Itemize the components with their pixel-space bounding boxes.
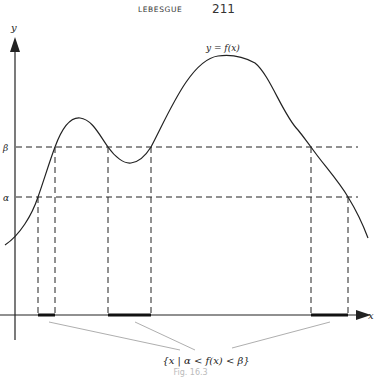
figure-caption: Fig. 16.3 bbox=[0, 368, 381, 377]
function-curve bbox=[5, 55, 368, 245]
level-lines bbox=[16, 147, 358, 197]
y-axis-label: y bbox=[10, 22, 17, 33]
beta-label: β bbox=[2, 143, 8, 153]
set-label: {x | α < f(x) < β} bbox=[162, 355, 249, 367]
alpha-label: α bbox=[3, 193, 9, 203]
y-axis: y bbox=[10, 22, 20, 340]
projection-lines bbox=[38, 147, 348, 315]
x-axis-label: x bbox=[368, 310, 374, 321]
curve-label: y = f(x) bbox=[205, 43, 240, 53]
y-axis-arrow-icon bbox=[10, 37, 20, 52]
lebesgue-figure: y x β α y = f(x) {x | α < f(x) < β} bbox=[0, 0, 381, 384]
pointer-lines bbox=[49, 322, 330, 350]
